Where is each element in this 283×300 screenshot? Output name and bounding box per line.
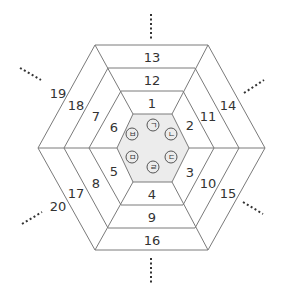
dots-lower-right [243, 202, 263, 214]
cell-6: 6 [110, 120, 118, 135]
cell-15: 15 [220, 186, 237, 201]
hexagon-diagram: ㄱ ㄴ ㄷ ㄹ ㅁ ㅂ 1 2 3 4 5 6 12 11 10 9 8 7 1… [0, 0, 283, 300]
cell-17: 17 [68, 186, 85, 201]
cell-9: 9 [148, 210, 156, 225]
cell-3: 3 [186, 165, 194, 180]
cell-5: 5 [110, 164, 118, 179]
cell-20: 20 [50, 199, 67, 214]
cell-2: 2 [186, 118, 194, 133]
cell-8: 8 [92, 176, 100, 191]
dots-upper-right [244, 80, 264, 93]
center-label-r: ㄹ [150, 163, 157, 172]
dots-lower-left [22, 212, 42, 224]
cell-13: 13 [144, 50, 161, 65]
cell-16: 16 [144, 233, 161, 248]
cell-7: 7 [92, 109, 100, 124]
cell-1: 1 [148, 96, 156, 111]
dots-upper-left [20, 68, 41, 80]
cell-14: 14 [220, 98, 237, 113]
cell-10: 10 [200, 176, 217, 191]
center-label-g: ㄱ [150, 121, 157, 130]
cell-19: 19 [50, 86, 67, 101]
center-label-n: ㄴ [168, 130, 175, 139]
cell-11: 11 [200, 109, 217, 124]
center-label-d: ㄷ [168, 153, 175, 162]
cell-4: 4 [148, 187, 156, 202]
center-label-b: ㅂ [129, 130, 136, 139]
center-label-m: ㅁ [129, 153, 136, 162]
cell-12: 12 [144, 73, 161, 88]
cell-18: 18 [68, 98, 85, 113]
